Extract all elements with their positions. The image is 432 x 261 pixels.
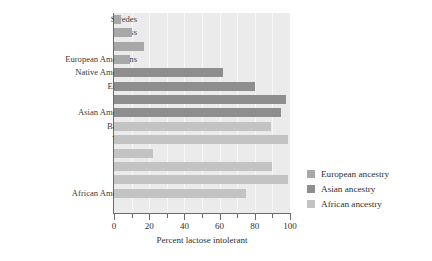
x-tick-minor	[202, 213, 203, 218]
x-tick-minor	[132, 213, 133, 218]
bar-row: Thais	[0, 93, 432, 106]
x-tick-major	[149, 213, 150, 220]
bar-row: Eskimos	[0, 80, 432, 93]
bar-row: Fulani	[0, 147, 432, 160]
bar	[114, 95, 286, 104]
x-tick-label: 20	[145, 221, 154, 231]
x-tick-label: 60	[215, 221, 224, 231]
bar	[114, 82, 255, 91]
legend-swatch-icon	[307, 200, 315, 208]
bar	[114, 42, 144, 51]
legend-item: African ancestry	[307, 197, 389, 210]
chart-legend: European ancestryAsian ancestryAfrican a…	[307, 167, 389, 212]
bar	[114, 135, 288, 144]
bar-row: Native Americans	[0, 66, 432, 79]
bar	[114, 108, 281, 117]
x-tick-major	[255, 213, 256, 220]
x-tick-major	[220, 213, 221, 220]
x-tick-major	[290, 213, 291, 220]
x-tick-minor	[272, 213, 273, 218]
bar	[114, 189, 246, 198]
bar	[114, 68, 223, 77]
lactose-intolerance-bar-chart: SwedesSwissFinnsEuropean AmericansNative…	[0, 0, 432, 261]
bar	[114, 28, 132, 37]
bar	[114, 15, 121, 24]
x-tick-label: 80	[250, 221, 259, 231]
bar	[114, 162, 272, 171]
bar-row: Yoruba	[0, 133, 432, 146]
x-tick-label: 0	[112, 221, 117, 231]
bar-row: Asian Americans	[0, 106, 432, 119]
legend-label: Asian ancestry	[321, 184, 375, 194]
x-tick-major	[114, 213, 115, 220]
bar-row: European Americans	[0, 53, 432, 66]
bar	[114, 149, 153, 158]
bar-row: Swiss	[0, 26, 432, 39]
legend-label: European ancestry	[321, 169, 389, 179]
x-tick-minor	[167, 213, 168, 218]
legend-item: Asian ancestry	[307, 182, 389, 195]
bar-row: Baganda	[0, 120, 432, 133]
x-tick-major	[184, 213, 185, 220]
x-tick-minor	[237, 213, 238, 218]
legend-swatch-icon	[307, 170, 315, 178]
bar	[114, 175, 288, 184]
bar	[114, 122, 271, 131]
x-tick-label: 40	[180, 221, 189, 231]
legend-item: European ancestry	[307, 167, 389, 180]
bar-row: Swedes	[0, 13, 432, 26]
legend-swatch-icon	[307, 185, 315, 193]
bar	[114, 55, 130, 64]
x-axis-title: Percent lactose intolerant	[114, 235, 290, 245]
legend-label: African ancestry	[321, 199, 382, 209]
bar-row: Finns	[0, 40, 432, 53]
x-tick-label: 100	[283, 221, 297, 231]
